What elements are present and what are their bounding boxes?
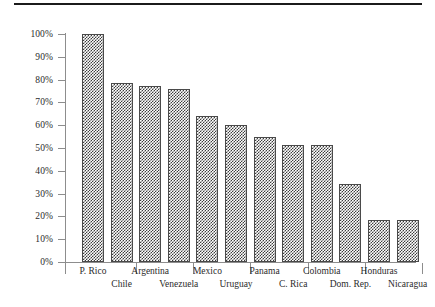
y-axis-tick	[58, 125, 65, 126]
y-axis-tick	[58, 57, 65, 58]
bar	[196, 116, 218, 262]
y-axis-tick	[58, 34, 65, 35]
y-axis-tick-label: 40%	[35, 166, 53, 176]
chart-page: 100%90%80%70%60%50%40%30%20%10%0% P. Ric…	[0, 0, 435, 307]
y-axis-tick	[58, 262, 65, 263]
x-axis-category-label: Chile	[111, 279, 132, 290]
bar	[397, 220, 419, 262]
bar	[339, 184, 361, 262]
y-axis-tick-label: 30%	[35, 189, 53, 199]
y-axis-tick	[58, 102, 65, 103]
bar-chart-plot: 100%90%80%70%60%50%40%30%20%10%0% P. Ric…	[0, 0, 435, 307]
x-axis-separator-tick	[65, 263, 66, 274]
y-axis-tick	[58, 80, 65, 81]
bar	[82, 34, 104, 262]
x-axis-category-label: Nicaragua	[388, 279, 427, 290]
y-axis-tick-label: 100%	[30, 29, 53, 39]
x-axis-category-label: Panama	[250, 266, 280, 277]
bar	[282, 145, 304, 262]
bar	[225, 125, 247, 262]
x-axis-category-label: C. Rica	[279, 279, 308, 290]
y-axis-tick	[58, 239, 65, 240]
x-axis-category-label: Uruguay	[219, 279, 252, 290]
y-axis-tick-label: 0%	[40, 257, 53, 267]
x-axis-category-label: P. Rico	[80, 266, 107, 277]
y-axis-tick	[58, 148, 65, 149]
y-axis-tick	[58, 216, 65, 217]
bar	[139, 86, 161, 262]
y-axis-tick-label: 20%	[35, 211, 53, 221]
y-axis-tick-label: 60%	[35, 120, 53, 130]
x-axis-category-label: Honduras	[361, 266, 398, 277]
y-axis-tick	[58, 194, 65, 195]
y-axis-tick-label: 10%	[35, 234, 53, 244]
bar	[254, 137, 276, 262]
bar	[368, 220, 390, 262]
y-axis-tick	[58, 171, 65, 172]
bar	[311, 145, 333, 262]
x-axis-separator-tick	[422, 263, 423, 274]
y-axis-tick-label: 70%	[35, 97, 53, 107]
y-axis-tick-label: 50%	[35, 143, 53, 153]
y-axis-tick-label: 80%	[35, 75, 53, 85]
x-axis-category-label: Colombia	[303, 266, 340, 277]
x-axis-category-label: Argentina	[131, 266, 169, 277]
x-axis-category-label: Venezuela	[159, 279, 198, 290]
y-axis-line	[65, 33, 66, 263]
x-axis-category-label: Mexico	[193, 266, 222, 277]
bar	[111, 83, 133, 262]
x-axis-line	[65, 262, 416, 263]
bar	[168, 89, 190, 262]
y-axis-tick-label: 90%	[35, 52, 53, 62]
x-axis-category-label: Dom. Rep.	[330, 279, 371, 290]
